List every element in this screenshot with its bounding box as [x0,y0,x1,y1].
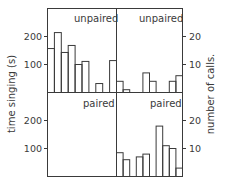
histogram-bar [169,149,176,177]
top-right-title: unpaired [139,13,183,24]
bottom-right-title: paired [150,98,182,109]
left-tick-100-top: 100 [24,59,42,70]
histogram-bar [54,33,61,93]
left-tick-200-bottom: 200 [24,115,42,126]
histogram-bar [96,84,103,93]
histogram-bar [75,65,82,93]
left-tick-200-top: 200 [24,31,42,42]
histogram-bar [136,157,143,177]
histogram-bar [163,146,170,177]
histogram-bar [123,160,130,177]
left-tick-100-bottom: 100 [24,143,42,154]
histogram-bar [143,73,150,93]
top-left-title: unpaired [74,13,118,24]
histogram-bar [169,81,176,92]
right-tick-20-bottom: 20 [189,115,201,126]
histogram-bar [110,61,117,93]
histogram-bar [68,45,75,92]
left-axis-label: time singing (s) [6,55,17,133]
bottom-left-title: paired [83,98,115,109]
histogram-bar [48,49,55,93]
histogram-chart: unpaired unpaired paired paired 200 100 … [0,0,228,186]
histogram-bar [143,154,150,176]
histogram-bar [176,168,183,176]
right-axis-label: number of calls. [205,54,216,135]
histogram-bar [117,153,124,177]
histogram-bar [82,61,89,92]
right-tick-20-top: 20 [189,31,201,42]
right-tick-10-top: 10 [189,59,201,70]
frame [44,9,186,177]
histogram-bar [150,81,157,92]
histogram-bar [156,126,163,176]
histogram-bar [61,52,68,92]
right-tick-10-bottom: 10 [189,143,201,154]
histogram-bar [176,76,183,93]
histogram-bar [117,81,124,92]
